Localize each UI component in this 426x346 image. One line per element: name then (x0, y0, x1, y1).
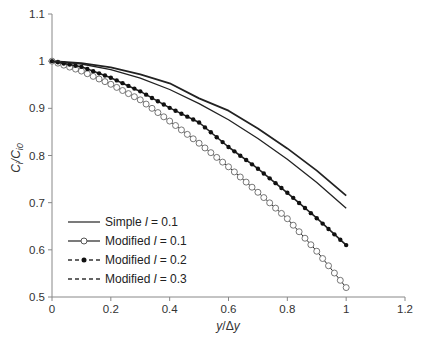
data-point-marker (226, 164, 232, 170)
data-point-marker (326, 227, 330, 231)
data-point-marker (138, 89, 142, 93)
data-point-marker (215, 135, 219, 139)
data-point-marker (144, 92, 148, 96)
data-point-marker (162, 102, 166, 106)
x-tick-label: 1 (343, 303, 349, 315)
y-tick-label: 0.8 (29, 150, 45, 162)
series-3 (52, 61, 346, 208)
data-point-marker (302, 235, 308, 241)
data-point-marker (126, 84, 130, 88)
y-axis-title: Ci/Ci0 (9, 143, 25, 173)
y-tick-label: 1 (39, 55, 45, 67)
data-point-marker (343, 285, 349, 291)
data-point-marker (290, 222, 296, 228)
series-2 (50, 59, 349, 247)
data-point-marker (320, 221, 324, 225)
x-tick-label: 0.2 (103, 303, 119, 315)
legend-item: Modified l = 0.3 (68, 272, 187, 286)
data-point-marker (232, 149, 236, 153)
data-point-marker (338, 238, 342, 242)
y-tick-label: 0.7 (29, 197, 45, 209)
filled-circle-icon (82, 258, 87, 263)
y-tick-label: 0.9 (29, 102, 45, 114)
legend-item: Modified l = 0.1 (68, 234, 187, 248)
data-point-marker (203, 125, 207, 129)
data-point-marker (197, 120, 201, 124)
series-line (52, 61, 346, 245)
data-point-marker (238, 153, 242, 157)
data-point-marker (131, 94, 137, 100)
data-point-marker (167, 118, 173, 124)
y-tick-label: 0.5 (29, 291, 45, 303)
data-point-marker (173, 123, 179, 129)
data-point-marker (262, 171, 266, 175)
data-point-marker (256, 167, 260, 171)
legend-label: Modified l = 0.3 (105, 272, 187, 286)
legend: Simple l = 0.1Modified l = 0.1Modified l… (68, 215, 187, 286)
data-point-marker (202, 145, 208, 151)
data-point-marker (102, 79, 108, 85)
data-point-marker (237, 174, 243, 180)
data-point-marker (156, 99, 160, 103)
data-point-marker (279, 186, 283, 190)
x-tick-label: 0.4 (162, 303, 179, 315)
data-point-marker (309, 211, 313, 215)
series-line (52, 61, 346, 195)
data-point-marker (84, 71, 90, 77)
series-0 (52, 61, 346, 195)
data-point-marker (273, 181, 277, 185)
data-point-marker (208, 150, 214, 156)
data-point-marker (249, 184, 255, 190)
data-point-marker (143, 101, 149, 107)
data-point-marker (320, 256, 326, 262)
data-point-marker (167, 106, 171, 110)
data-point-marker (132, 86, 136, 90)
open-circle-icon (81, 238, 87, 244)
data-point-marker (161, 114, 167, 120)
data-point-marker (150, 96, 154, 100)
data-point-marker (220, 159, 226, 165)
data-point-marker (278, 210, 284, 216)
data-point-marker (314, 248, 320, 254)
data-point-marker (296, 229, 302, 235)
data-point-marker (85, 67, 89, 71)
data-point-marker (243, 179, 249, 185)
data-point-marker (178, 127, 184, 133)
data-point-marker (214, 154, 220, 160)
data-point-marker (96, 76, 102, 82)
data-point-marker (344, 243, 348, 247)
data-point-marker (285, 191, 289, 195)
data-point-marker (220, 140, 224, 144)
data-point-marker (191, 117, 195, 121)
chart: 0.50.60.70.80.911.100.20.40.60.811.2 Sim… (0, 0, 426, 346)
data-point-marker (284, 216, 290, 222)
data-point-marker (97, 71, 101, 75)
data-point-marker (137, 97, 143, 103)
data-point-marker (190, 136, 196, 142)
data-point-marker (120, 81, 124, 85)
series-1 (49, 58, 349, 290)
data-point-marker (109, 75, 113, 79)
data-point-marker (315, 216, 319, 220)
series-line (52, 61, 346, 208)
y-tick-label: 0.6 (29, 244, 45, 256)
data-point-marker (125, 91, 131, 97)
data-point-marker (337, 277, 343, 283)
x-tick-label: 0 (49, 303, 55, 315)
legend-label: Simple l = 0.1 (105, 215, 178, 229)
data-point-marker (196, 140, 202, 146)
series-line (52, 61, 346, 287)
data-point-marker (331, 270, 337, 276)
data-point-marker (326, 263, 332, 269)
x-axis-title: y/Δy (215, 319, 240, 333)
data-point-marker (184, 131, 190, 137)
data-point-marker (185, 114, 189, 118)
y-tick-label: 1.1 (29, 8, 45, 20)
data-point-marker (173, 109, 177, 113)
data-point-marker (231, 169, 237, 175)
data-point-marker (108, 81, 114, 87)
x-tick-label: 0.6 (221, 303, 237, 315)
data-point-marker (244, 158, 248, 162)
data-point-marker (226, 145, 230, 149)
x-tick-label: 0.8 (279, 303, 295, 315)
